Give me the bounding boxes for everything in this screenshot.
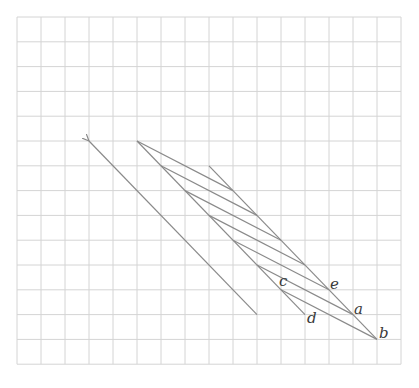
point-label-e: e — [330, 275, 339, 293]
point-label-c: c — [279, 272, 288, 290]
point-labels: cdeab — [279, 272, 389, 343]
point-label-a: a — [354, 300, 363, 318]
diagram-canvas: cdeab — [0, 0, 419, 388]
point-label-d: d — [307, 309, 317, 327]
point-label-b: b — [379, 324, 389, 342]
